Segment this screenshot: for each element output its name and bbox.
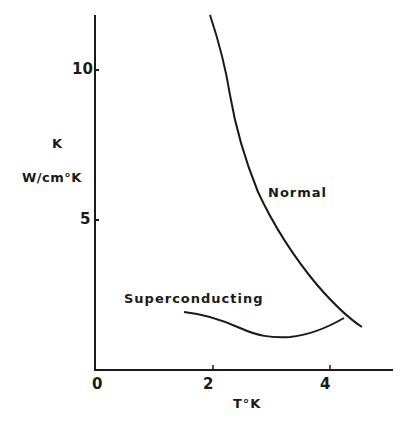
superconducting-curve bbox=[184, 312, 344, 337]
chart-canvas bbox=[0, 0, 416, 424]
x-tick-label-2: 2 bbox=[203, 375, 213, 393]
x-tick-label-0: 0 bbox=[92, 375, 102, 393]
y-tick-label-5: 5 bbox=[80, 210, 90, 228]
normal-curve-label: Normal bbox=[268, 185, 327, 200]
normal-curve bbox=[210, 15, 362, 327]
y-axis-units: W/cm°K bbox=[22, 170, 82, 185]
y-axis-label: K bbox=[52, 136, 63, 151]
x-tick-label-4: 4 bbox=[320, 375, 330, 393]
x-axis-label: T°K bbox=[233, 396, 261, 411]
superconducting-curve-label: Superconducting bbox=[124, 291, 264, 306]
y-tick-label-10: 10 bbox=[72, 60, 93, 78]
